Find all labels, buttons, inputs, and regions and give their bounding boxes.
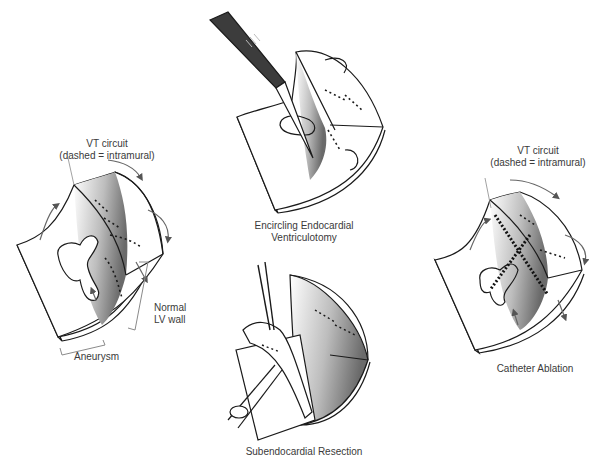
resection-illustration: [228, 262, 370, 440]
aneurysm-heart-illustration: [17, 158, 168, 355]
ventriculotomy-caption: Encircling Endocardial Ventriculotomy: [234, 220, 374, 244]
aneurysm-callout-label: VT circuit (dashed = intramural): [52, 138, 162, 162]
ablation-illustration: [435, 178, 586, 353]
normal-line: Normal: [154, 302, 186, 314]
resection-caption: Subendocardial Resection: [234, 446, 374, 458]
dashed-intramural-note: (dashed = intramural): [52, 150, 162, 162]
caption-line-2: Ventriculotomy: [234, 232, 374, 244]
vt-circuit-label: VT circuit: [483, 145, 593, 157]
aneurysm-label: Aneurysm: [74, 351, 119, 363]
vt-circuit-label: VT circuit: [52, 138, 162, 150]
ventriculotomy-illustration: [210, 12, 385, 213]
ablation-callout-label: VT circuit (dashed = intramural): [483, 145, 593, 169]
caption-line-1: Encircling Endocardial: [234, 220, 374, 232]
dashed-intramural-note: (dashed = intramural): [483, 157, 593, 169]
ablation-caption: Catheter Ablation: [480, 363, 590, 375]
normal-lv-wall-label: Normal LV wall: [154, 302, 186, 326]
lv-wall-line: LV wall: [154, 314, 186, 326]
